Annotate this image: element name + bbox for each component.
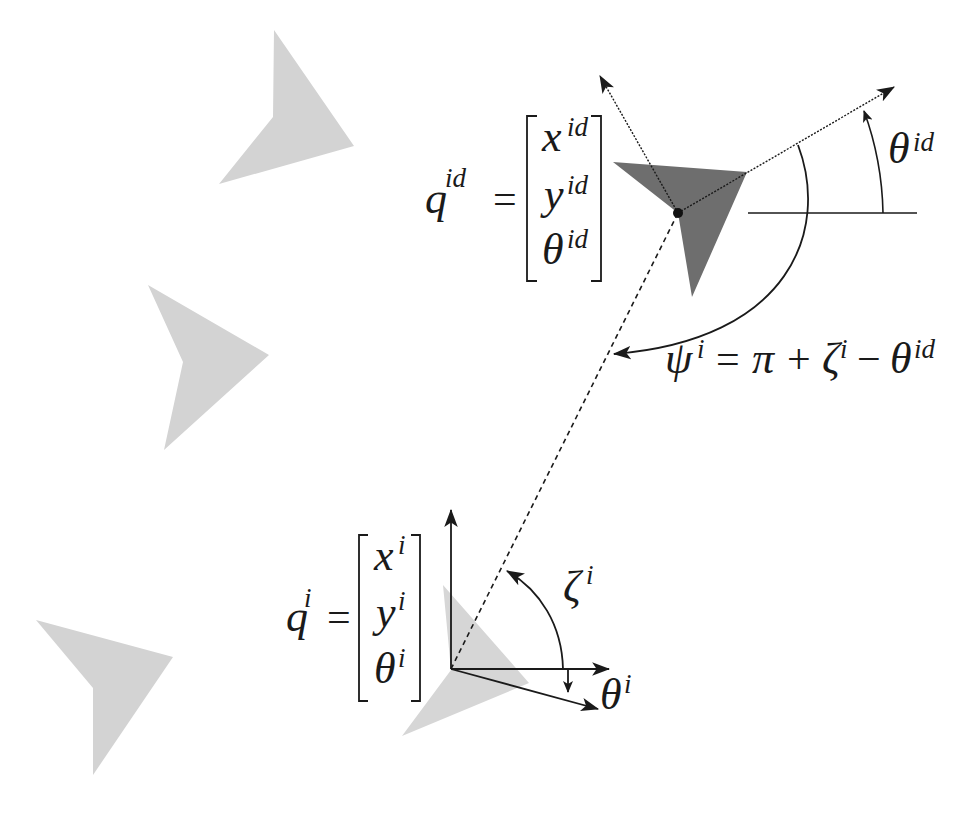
- psi-theta: θ: [890, 334, 912, 383]
- leader-q-symbol: q: [425, 174, 447, 223]
- leader-x-entry: x: [541, 112, 562, 161]
- theta-id-arc-arrow: [864, 111, 883, 213]
- theta-i-label-sup: i: [624, 669, 632, 699]
- leader-y-entry: y: [540, 170, 564, 219]
- follower-robot: [402, 585, 529, 736]
- theta-i-label: θ: [600, 670, 622, 719]
- follower-theta-entry: θ: [374, 644, 396, 693]
- psi-pi: π: [752, 334, 776, 383]
- zeta-i-label-sup: i: [586, 560, 594, 590]
- ghost-robot-3: [36, 620, 173, 775]
- theta-id-label-sup: id: [913, 127, 935, 157]
- leader-x-sup: id: [567, 112, 589, 142]
- psi-minus: −: [857, 336, 881, 382]
- leader-q-superscript: id: [445, 163, 467, 193]
- leader-theta-sup: id: [567, 224, 589, 254]
- leader-left-bracket: [527, 116, 537, 281]
- psi-theta-sup: id: [914, 334, 936, 364]
- psi-plus: +: [787, 336, 811, 382]
- leader-theta-entry: θ: [542, 225, 564, 274]
- psi-equals: =: [716, 336, 740, 382]
- follower-state-vector: q i = x i y i θ i: [286, 530, 420, 701]
- theta-id-label: θ: [888, 124, 910, 173]
- leader-equals: =: [493, 176, 517, 222]
- follower-q-superscript: i: [304, 583, 312, 613]
- follower-x-entry: x: [373, 531, 394, 580]
- follower-right-bracket: [411, 535, 420, 701]
- follower-y-sup: i: [398, 586, 406, 616]
- psi-zeta-sup: i: [840, 334, 848, 364]
- follower-x-sup: i: [398, 530, 406, 560]
- follower-y-entry: y: [372, 588, 396, 637]
- psi-equation: ψ i = π + ζ i − θ id: [665, 334, 936, 383]
- psi-symbol: ψ: [665, 334, 693, 383]
- formation-diagram: q id = x id y id θ id q i = x i y i θ i …: [0, 0, 961, 815]
- leader-right-bracket: [591, 116, 601, 281]
- leader-robot: [613, 162, 747, 297]
- ghost-robot-2: [148, 285, 269, 450]
- follower-left-bracket: [359, 535, 368, 701]
- leader-center-dot: [673, 208, 683, 218]
- psi-superscript: i: [697, 334, 705, 364]
- follower-equals: =: [327, 594, 351, 640]
- zeta-i-label: ζ: [563, 562, 584, 611]
- zeta-arc-arrow: [507, 571, 563, 669]
- follower-theta-sup: i: [398, 643, 406, 673]
- ghost-robot-1: [219, 30, 354, 184]
- leader-y-sup: id: [567, 170, 589, 200]
- leader-state-vector: q id = x id y id θ id: [425, 112, 601, 281]
